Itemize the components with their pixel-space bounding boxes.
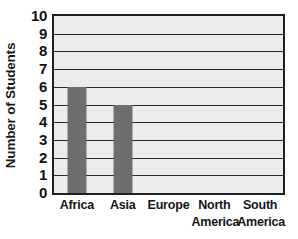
bar-chart-figure: Number of Students 109876543210 AfricaAs… bbox=[0, 0, 298, 239]
x-axis-tick-labels: AfricaAsiaEuropeNorthAmericaSouthAmerica bbox=[52, 197, 285, 239]
x-axis-label-line2: America bbox=[191, 214, 237, 231]
y-axis-tick-0: 0 bbox=[39, 186, 47, 200]
bar-slot-africa bbox=[54, 16, 100, 193]
bar-slot-asia bbox=[100, 16, 146, 193]
y-axis-tick-8: 8 bbox=[39, 44, 47, 58]
bar-slot-europe bbox=[146, 16, 192, 193]
x-axis-label-line1: North bbox=[198, 198, 230, 212]
y-axis-title: Number of Students bbox=[0, 14, 22, 196]
y-axis-tick-10: 10 bbox=[31, 9, 47, 23]
x-axis-label-line1: Africa bbox=[60, 198, 94, 212]
x-axis-label-south-america: SouthAmerica bbox=[237, 197, 283, 231]
y-axis-tick-9: 9 bbox=[39, 27, 47, 41]
bar-asia[interactable] bbox=[113, 105, 132, 194]
bars-layer bbox=[54, 16, 283, 193]
x-axis-label-line2: America bbox=[237, 214, 283, 231]
x-axis-label-line1: Asia bbox=[110, 198, 136, 212]
plot-area bbox=[52, 14, 285, 195]
y-axis-tick-5: 5 bbox=[39, 98, 47, 112]
x-axis-label-asia: Asia bbox=[100, 197, 146, 214]
y-axis-title-label: Number of Students bbox=[4, 42, 19, 167]
x-axis-label-africa: Africa bbox=[54, 197, 100, 214]
y-axis-tick-4: 4 bbox=[39, 115, 47, 129]
bar-africa[interactable] bbox=[67, 87, 86, 193]
y-axis-tick-7: 7 bbox=[39, 62, 47, 76]
x-axis-label-europe: Europe bbox=[146, 197, 192, 214]
x-axis-label-north-america: NorthAmerica bbox=[191, 197, 237, 231]
bar-slot-south-america bbox=[237, 16, 283, 193]
y-axis-tick-labels: 109876543210 bbox=[22, 14, 50, 195]
y-axis-tick-3: 3 bbox=[39, 133, 47, 147]
y-axis-tick-1: 1 bbox=[39, 168, 47, 182]
x-axis-label-line1: Europe bbox=[148, 198, 190, 212]
y-axis-tick-2: 2 bbox=[39, 151, 47, 165]
y-axis-tick-6: 6 bbox=[39, 80, 47, 94]
bar-slot-north-america bbox=[191, 16, 237, 193]
x-axis-label-line1: South bbox=[243, 198, 277, 212]
